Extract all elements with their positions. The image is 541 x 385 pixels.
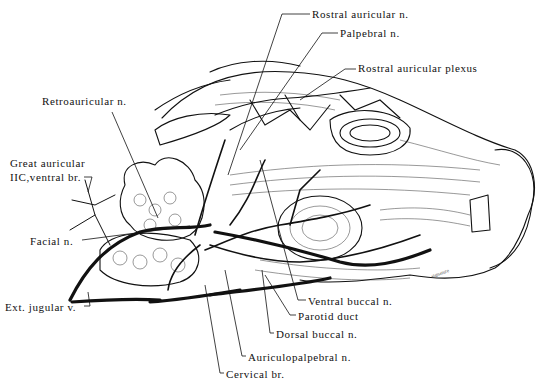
label-auriculopalpebral-n: Auriculopalpebral n. <box>248 351 351 363</box>
head-illustration: signature <box>0 0 541 385</box>
label-iic-ventral-br: IIC,ventral br. <box>10 171 81 183</box>
anatomical-figure: signature Rostral auricular n. Palpebral… <box>0 0 541 385</box>
label-cervical-br: Cervical br. <box>226 368 285 380</box>
label-ext-jugular-v: Ext. jugular v. <box>5 301 76 313</box>
label-palpebral-n: Palpebral n. <box>340 27 400 39</box>
label-retroauricular-n: Retroauricular n. <box>42 95 127 107</box>
svg-text:signature: signature <box>431 268 451 279</box>
label-dorsal-buccal-n: Dorsal buccal n. <box>276 328 357 340</box>
label-rostral-auricular-plexus: Rostral auricular plexus <box>358 62 477 74</box>
label-great-auricular: Great auricular <box>10 157 85 169</box>
label-facial-n: Facial n. <box>30 235 73 247</box>
label-parotid-duct: Parotid duct <box>298 310 359 322</box>
label-ventral-buccal-n: Ventral buccal n. <box>308 295 392 307</box>
label-rostral-auricular-n: Rostral auricular n. <box>312 8 409 20</box>
